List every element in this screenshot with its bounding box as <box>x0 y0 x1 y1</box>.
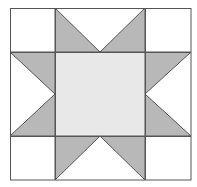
center-square <box>55 52 145 136</box>
sawtooth-star-quilt-block <box>0 0 197 187</box>
